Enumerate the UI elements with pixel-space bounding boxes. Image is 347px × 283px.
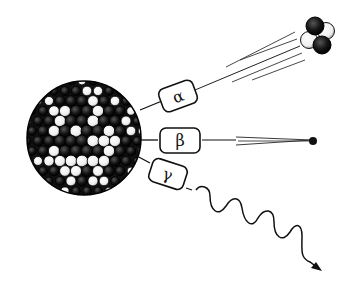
beta-emission: β xyxy=(141,128,317,153)
helium-nucleus-icon xyxy=(301,17,335,54)
beta-symbol: β xyxy=(175,131,184,150)
gamma-label-box: γ xyxy=(147,157,189,191)
nucleus-icon xyxy=(23,77,146,195)
alpha-label-box: α xyxy=(157,79,199,114)
alpha-emission: α xyxy=(140,17,335,113)
gamma-emission: γ xyxy=(135,155,322,271)
radioactive-decay-diagram: α β γ xyxy=(0,0,347,283)
electron-icon xyxy=(309,137,317,145)
beta-label-box: β xyxy=(160,128,200,153)
